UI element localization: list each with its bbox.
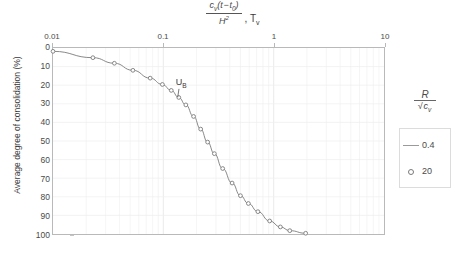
x-axis-formula-denominator: H2 xyxy=(206,14,241,26)
data-point xyxy=(184,103,188,107)
y-tick-label-5: 50 xyxy=(28,136,50,146)
data-point xyxy=(148,76,152,80)
legend-marker-circle-icon xyxy=(400,164,422,178)
legend-title-formula: R √cv xyxy=(414,90,437,113)
data-point xyxy=(246,202,250,206)
legend-label-1: 20 xyxy=(422,166,432,176)
data-point xyxy=(131,68,135,72)
data-point xyxy=(51,49,55,53)
legend-box: 0.4 20 xyxy=(399,128,451,188)
data-point xyxy=(288,229,292,233)
x-tick-label-3: 10 xyxy=(381,32,390,41)
data-point xyxy=(221,167,225,171)
x-axis-tv-label: , Tv xyxy=(245,13,260,26)
data-point xyxy=(256,210,260,214)
data-point xyxy=(278,225,282,229)
data-point xyxy=(230,181,234,185)
x-axis-formula: cv(t − t0) H2 xyxy=(206,1,241,26)
legend-item-0[interactable]: 0.4 xyxy=(400,133,450,157)
y-tick-label-7: 70 xyxy=(28,174,50,184)
data-point xyxy=(112,61,116,65)
x-tick-label-2: 1 xyxy=(272,32,276,41)
data-point xyxy=(192,115,196,119)
y-axis-title: Average degree of consolidation (%) xyxy=(12,35,22,215)
y-tick-label-3: 30 xyxy=(28,98,50,108)
annotation-ub: UB xyxy=(176,77,187,89)
y-axis-ticks: 0102030405060708090100 xyxy=(22,0,50,255)
legend-marker-line-icon xyxy=(400,138,422,152)
y-tick-label-4: 40 xyxy=(28,117,50,127)
y-tick-mark-10 xyxy=(70,235,74,236)
legend-title-denominator: √cv xyxy=(414,101,437,113)
x-axis-formula-numerator: cv(t − t0) xyxy=(206,1,241,14)
plot-area xyxy=(52,47,385,235)
chart-figure: cv(t − t0) H2 , Tv 0.010.1110 0102030405… xyxy=(0,0,458,255)
data-point xyxy=(177,96,181,100)
legend-title: R √cv xyxy=(399,90,451,113)
y-tick-label-10: 100 xyxy=(28,230,50,240)
data-point xyxy=(212,152,216,156)
x-tick-label-1: 0.1 xyxy=(157,32,168,41)
y-tick-label-0: 0 xyxy=(28,42,50,52)
data-series-layer xyxy=(53,48,384,234)
x-axis-title: cv(t − t0) H2 , Tv xyxy=(168,1,298,26)
data-point xyxy=(91,56,95,60)
y-tick-label-8: 80 xyxy=(28,192,50,202)
y-tick-label-2: 20 xyxy=(28,80,50,90)
data-point xyxy=(268,219,272,223)
data-point xyxy=(206,140,210,144)
x-tick-mark-3 xyxy=(385,43,386,47)
data-point xyxy=(239,194,243,198)
legend-item-1[interactable]: 20 xyxy=(400,159,450,183)
y-tick-label-1: 10 xyxy=(28,61,50,71)
y-tick-label-6: 60 xyxy=(28,155,50,165)
data-point xyxy=(169,89,173,93)
data-point xyxy=(199,127,203,131)
data-point xyxy=(304,231,308,235)
data-point xyxy=(160,83,164,87)
y-tick-label-9: 90 xyxy=(28,211,50,221)
legend-label-0: 0.4 xyxy=(422,140,435,150)
